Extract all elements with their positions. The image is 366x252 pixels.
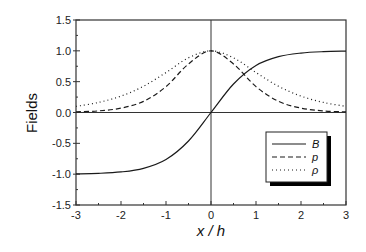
legend-label: ρ bbox=[311, 164, 318, 176]
x-tick-label: -1 bbox=[161, 209, 171, 221]
y-tick-label: 1.0 bbox=[56, 45, 71, 57]
x-tick-label: 2 bbox=[298, 209, 304, 221]
y-axis-title: Fields bbox=[23, 93, 40, 133]
x-tick-label: 3 bbox=[343, 209, 349, 221]
axis-ticks: -3-2-10123-1.5-1.0-0.50.00.51.01.5 bbox=[52, 14, 349, 221]
y-tick-label: 1.5 bbox=[56, 14, 71, 26]
legend-label: p bbox=[311, 151, 318, 163]
y-tick-label: -1.5 bbox=[52, 199, 71, 211]
x-axis-title: x / h bbox=[196, 222, 225, 239]
legend-label: B bbox=[312, 138, 319, 150]
y-tick-label: 0.0 bbox=[56, 107, 71, 119]
x-tick-label: -3 bbox=[71, 209, 81, 221]
x-tick-label: 1 bbox=[253, 209, 259, 221]
chart: -3-2-10123-1.5-1.0-0.50.00.51.01.5 B p ρ… bbox=[0, 0, 366, 252]
x-tick-label: -2 bbox=[116, 209, 126, 221]
y-tick-label: 0.5 bbox=[56, 76, 71, 88]
legend: B p ρ bbox=[266, 132, 331, 186]
y-tick-label: -0.5 bbox=[52, 137, 71, 149]
y-tick-label: -1.0 bbox=[52, 168, 71, 180]
x-tick-label: 0 bbox=[208, 209, 214, 221]
